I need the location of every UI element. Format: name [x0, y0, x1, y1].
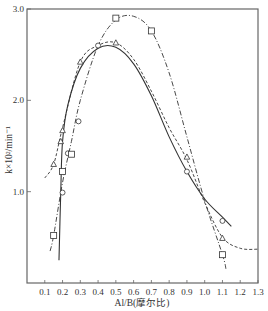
plot-border	[27, 9, 258, 283]
circle-marker	[184, 169, 189, 174]
chart: 0.10.20.30.40.50.60.70.80.91.01.11.21.3 …	[0, 0, 268, 311]
x-tick-label: 1.0	[199, 287, 211, 297]
y-axis-title: k×10²/min⁻¹	[4, 126, 14, 174]
curve-circles	[59, 46, 231, 261]
x-axis-title: Al/B(摩尔比)	[115, 297, 170, 309]
triangle-marker	[78, 59, 84, 64]
y-tick-label: 3.0	[13, 4, 25, 14]
series-curves	[45, 15, 258, 269]
x-tick-label: 0.9	[181, 287, 193, 297]
triangle-marker	[60, 127, 66, 132]
x-tick-label: 0.7	[146, 287, 158, 297]
triangle-marker	[220, 235, 226, 240]
square-marker	[60, 169, 66, 175]
triangle-marker	[113, 40, 119, 45]
square-marker	[219, 252, 225, 258]
x-tick-label: 1.2	[235, 287, 246, 297]
y-tick-label: 2.0	[13, 95, 25, 105]
x-tick-label: 0.5	[110, 287, 122, 297]
square-marker	[68, 151, 74, 157]
x-tick-label: 1.3	[252, 287, 264, 297]
x-tick-label: 0.2	[57, 287, 68, 297]
circle-marker	[76, 119, 81, 124]
triangle-marker	[51, 161, 57, 166]
x-tick-label: 0.6	[128, 287, 140, 297]
square-marker	[113, 15, 119, 21]
square-marker	[51, 233, 57, 239]
x-tick-label: 0.1	[39, 287, 50, 297]
curve-triangles	[45, 42, 258, 250]
x-tick-label: 0.3	[75, 287, 87, 297]
square-marker	[148, 28, 154, 34]
x-tick-label: 0.4	[92, 287, 104, 297]
y-tick-label: 1.0	[13, 187, 25, 197]
y-axis-ticks: 1.02.03.0	[13, 4, 31, 197]
circle-marker	[220, 218, 225, 223]
plot-frame	[27, 9, 258, 283]
series-markers	[51, 15, 226, 258]
x-tick-label: 1.1	[217, 287, 228, 297]
circle-marker	[96, 43, 101, 48]
curve-squares	[50, 15, 226, 269]
x-tick-label: 0.8	[164, 287, 176, 297]
circle-marker	[60, 190, 65, 195]
